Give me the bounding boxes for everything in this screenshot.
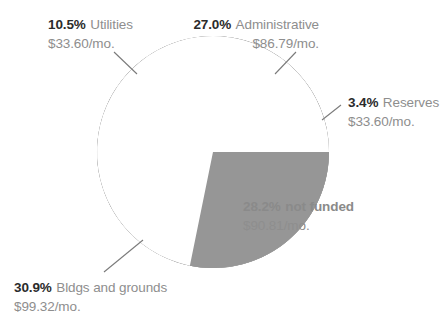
callout-reserves-amount: $33.60/mo. [348, 113, 439, 130]
callout-reserves-percent: 3.4% [348, 95, 378, 110]
pie-chart-figure: 10.5% Utilities $33.60/mo. 27.0% Adminis… [0, 0, 447, 317]
leader-line-bldgs [104, 240, 143, 272]
callout-bldgs-name: Bldgs and grounds [56, 280, 167, 295]
callout-administrative-name: Administrative [236, 17, 319, 32]
callout-utilities: 10.5% Utilities $33.60/mo. [48, 14, 133, 53]
leader-line-utilities [114, 52, 137, 74]
callout-bldgs-amount: $99.32/mo. [14, 298, 167, 315]
callout-bldgs-and-grounds: 30.9% Bldgs and grounds $99.32/mo. [14, 277, 167, 316]
callout-utilities-amount: $33.60/mo. [48, 35, 133, 52]
callout-administrative: 27.0% Administrative $86.79/mo. [193, 14, 319, 53]
callout-bldgs-percent: 30.9% [14, 280, 52, 295]
callout-not-funded: 28.2% not funded $90.81/mo. [243, 196, 354, 235]
callout-not-funded-percent: 28.2% [243, 199, 281, 214]
callout-reserves: 3.4% Reserves $33.60/mo. [348, 92, 439, 131]
callout-administrative-amount: $86.79/mo. [193, 35, 319, 52]
leader-line-reserves [322, 105, 341, 120]
callout-utilities-name: Utilities [90, 17, 133, 32]
callout-not-funded-amount: $90.81/mo. [243, 217, 354, 234]
callout-not-funded-name: not funded [285, 199, 354, 214]
callout-reserves-name: Reserves [383, 95, 439, 110]
callout-utilities-percent: 10.5% [48, 17, 86, 32]
callout-administrative-percent: 27.0% [193, 17, 231, 32]
